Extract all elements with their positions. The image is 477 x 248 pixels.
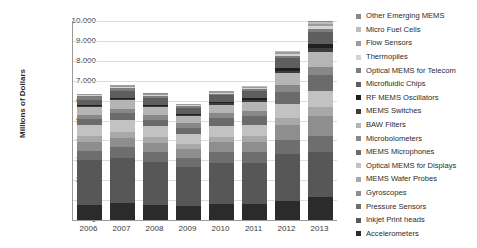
x-tick-label: 2008	[137, 224, 173, 233]
bar-column[interactable]	[209, 91, 234, 220]
bar-segment[interactable]	[176, 149, 201, 158]
bar-segment[interactable]	[308, 152, 333, 197]
x-tick-label: 2006	[71, 224, 107, 233]
bar-segment[interactable]	[275, 125, 300, 140]
bar-segment[interactable]	[143, 152, 168, 162]
legend-item[interactable]: MEMS Microphones	[356, 145, 477, 159]
legend-label: Pressure Sensors	[366, 202, 426, 211]
legend-item[interactable]: Optical MEMS for Displays	[356, 159, 477, 173]
bar-segment[interactable]	[308, 116, 333, 136]
bar-segment[interactable]	[242, 91, 267, 98]
legend-item[interactable]: Microbolometers	[356, 131, 477, 145]
legend-swatch-icon	[356, 55, 361, 60]
bar-segment[interactable]	[209, 118, 234, 125]
bar-column[interactable]	[176, 104, 201, 220]
legend-swatch-icon	[356, 163, 361, 168]
bar-segment[interactable]	[176, 158, 201, 168]
bar-segment[interactable]	[209, 105, 234, 113]
bar-segment[interactable]	[110, 113, 135, 120]
bar-segment[interactable]	[143, 143, 168, 152]
bar-column[interactable]	[308, 21, 333, 220]
bar-segment[interactable]	[308, 197, 333, 220]
bar-segment[interactable]	[275, 154, 300, 200]
bar-segment[interactable]	[110, 203, 135, 220]
bar-segment[interactable]	[275, 85, 300, 92]
legend-item[interactable]: BAW Filters	[356, 118, 477, 132]
bar-segment[interactable]	[308, 67, 333, 76]
bar-segment[interactable]	[308, 91, 333, 107]
bar-segment[interactable]	[242, 116, 267, 124]
bar-segment[interactable]	[209, 163, 234, 205]
bar-segment[interactable]	[110, 138, 135, 147]
bar-segment[interactable]	[209, 152, 234, 163]
legend-swatch-icon	[356, 218, 361, 223]
bar-segment[interactable]	[110, 100, 135, 108]
bar-segment[interactable]	[308, 75, 333, 91]
bar-segment[interactable]	[77, 160, 102, 205]
bar-column[interactable]	[77, 94, 102, 220]
bar-segment[interactable]	[242, 163, 267, 204]
bar-segment[interactable]	[209, 142, 234, 152]
x-tick-label: 2012	[269, 224, 305, 233]
bar-segment[interactable]	[77, 107, 102, 115]
bar-segment[interactable]	[143, 205, 168, 220]
bar-segment[interactable]	[242, 142, 267, 152]
bar-column[interactable]	[242, 86, 267, 220]
legend-item[interactable]: MEMS Wafer Probes	[356, 172, 477, 186]
bar-segment[interactable]	[110, 147, 135, 157]
legend-item[interactable]: Optical MEMS for Telecom	[356, 63, 477, 77]
bar-column[interactable]	[110, 85, 135, 220]
bar-segment[interactable]	[275, 140, 300, 154]
legend-item[interactable]: Gyroscopes	[356, 186, 477, 200]
bar-segment[interactable]	[275, 73, 300, 85]
bar-segment[interactable]	[308, 136, 333, 153]
bar-segment[interactable]	[242, 102, 267, 111]
bar-segment[interactable]	[275, 104, 300, 118]
legend-item[interactable]: Inkjet Print heads	[356, 213, 477, 227]
bar-segment[interactable]	[143, 162, 168, 205]
bar-segment[interactable]	[209, 126, 234, 137]
bar-segment[interactable]	[242, 152, 267, 163]
bar-segment[interactable]	[275, 92, 300, 104]
legend-item[interactable]: Thermopiles	[356, 50, 477, 64]
legend-item[interactable]: Micro Fuel Cells	[356, 23, 477, 37]
bar-segment[interactable]	[209, 204, 234, 220]
legend-item[interactable]: Accelerometers	[356, 227, 477, 241]
x-tick-label: 2007	[104, 224, 140, 233]
legend-swatch-icon	[356, 41, 361, 46]
bar-segment[interactable]	[77, 205, 102, 220]
bar-segment[interactable]	[143, 126, 168, 137]
bar-segment[interactable]	[77, 151, 102, 161]
bar-segment[interactable]	[176, 116, 201, 123]
bar-column[interactable]	[143, 93, 168, 220]
bar-segment[interactable]	[275, 118, 300, 125]
x-tick-label: 2009	[170, 224, 206, 233]
legend-label: Micro Fuel Cells	[366, 25, 420, 34]
legend-item[interactable]: MEMS Switches	[356, 104, 477, 118]
bar-segment[interactable]	[308, 32, 333, 44]
bar-segment[interactable]	[110, 158, 135, 204]
bar-segment[interactable]	[275, 201, 300, 221]
bar-segment[interactable]	[110, 120, 135, 132]
bar-segment[interactable]	[308, 107, 333, 115]
legend-item[interactable]: Other Emerging MEMS	[356, 9, 477, 23]
legend-item[interactable]: Pressure Sensors	[356, 199, 477, 213]
bar-segment[interactable]	[77, 142, 102, 151]
bar-segment[interactable]	[308, 52, 333, 67]
bar-segment[interactable]	[176, 134, 201, 144]
legend-item[interactable]: Flow Sensors	[356, 36, 477, 50]
legend-item[interactable]: RF MEMS Oscillators	[356, 91, 477, 105]
x-tick-label: 2013	[302, 224, 338, 233]
bar-segment[interactable]	[242, 125, 267, 137]
bar-segment[interactable]	[143, 107, 168, 115]
bar-segment[interactable]	[77, 125, 102, 136]
bar-column[interactable]	[275, 51, 300, 220]
bar-segment[interactable]	[209, 95, 234, 102]
bar-segment[interactable]	[275, 58, 300, 68]
legend-swatch-icon	[356, 204, 361, 209]
bar-segment[interactable]	[176, 167, 201, 206]
bar-segment[interactable]	[242, 204, 267, 220]
legend-item[interactable]: Microfluidic Chips	[356, 77, 477, 91]
legend-label: Thermopiles	[366, 52, 408, 61]
bar-segment[interactable]	[176, 206, 201, 220]
